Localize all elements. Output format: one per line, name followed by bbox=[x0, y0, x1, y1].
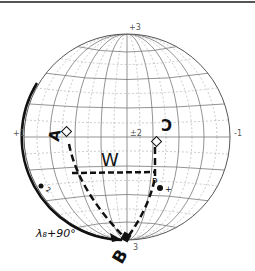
label-small-2: 2 bbox=[44, 186, 52, 195]
label-b: B bbox=[108, 246, 132, 267]
arc-label: λ₈+90° bbox=[35, 227, 76, 240]
label-c: C bbox=[161, 115, 172, 133]
axis-label-top: +3 bbox=[129, 23, 141, 32]
point-2-dot bbox=[39, 184, 44, 189]
label-a: A bbox=[45, 128, 65, 143]
label-w: W bbox=[101, 149, 119, 170]
axis-label-center: ±2 bbox=[130, 129, 142, 138]
dashed-path-w bbox=[72, 172, 155, 173]
label-small-3: 3 bbox=[133, 243, 138, 252]
label-p: P bbox=[152, 177, 158, 187]
axis-label-left: +1 bbox=[13, 129, 25, 138]
axis-label-right: -1 bbox=[234, 129, 242, 138]
label-small-plus: + bbox=[165, 185, 172, 194]
sphere-diagram: +3 +1 ±2 -1 A C W P 2 + 3 B λ₈+90° bbox=[0, 0, 255, 271]
point-plus-dot bbox=[157, 185, 163, 191]
